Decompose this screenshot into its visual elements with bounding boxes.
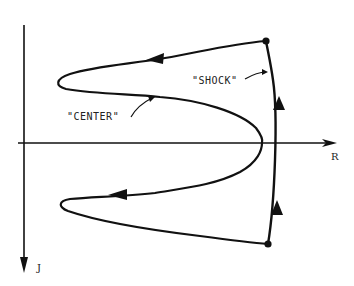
j-axis-label: J xyxy=(37,262,41,273)
r-axis-label: R xyxy=(331,151,339,162)
arrow-upper-left-icon xyxy=(146,53,164,64)
j-axis xyxy=(20,25,28,273)
top-node-dot-icon xyxy=(262,37,269,44)
shock-annotation-label: "SHOCK" xyxy=(192,75,238,86)
center-curve-lower xyxy=(61,143,268,244)
j-axis-arrow-icon xyxy=(20,257,28,273)
center-pointer-head-icon xyxy=(148,96,155,102)
diagram-graphics xyxy=(0,0,354,286)
phase-diagram: "CENTER" "SHOCK" R J xyxy=(0,0,354,286)
center-pointer-arrow-icon xyxy=(131,98,152,117)
r-axis xyxy=(18,139,337,147)
arrow-lower-left-icon xyxy=(108,189,127,200)
center-annotation-label: "CENTER" xyxy=(67,111,119,122)
shock-pointer-head-icon xyxy=(262,69,268,75)
bottom-node-dot-icon xyxy=(264,240,271,247)
